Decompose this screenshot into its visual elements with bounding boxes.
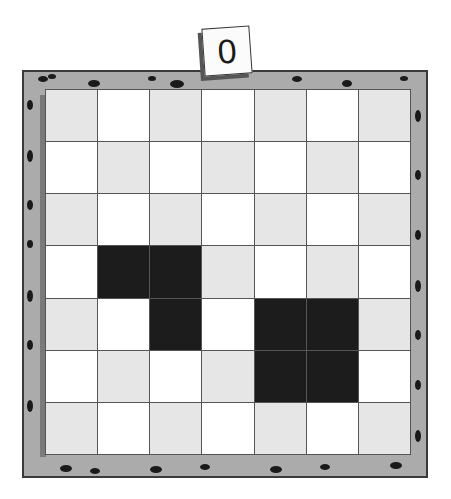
spot-decoration: [270, 466, 282, 473]
board-cell[interactable]: [202, 142, 253, 193]
board-cell[interactable]: [150, 299, 201, 350]
board-cell[interactable]: [359, 403, 410, 454]
board-cell[interactable]: [202, 194, 253, 245]
board-cell[interactable]: [359, 142, 410, 193]
spot-decoration: [27, 100, 33, 110]
spot-decoration: [400, 76, 408, 81]
board-cell[interactable]: [150, 194, 201, 245]
spot-decoration: [27, 400, 33, 412]
spot-decoration: [415, 170, 421, 180]
spot-decoration: [415, 380, 421, 390]
game-board[interactable]: [45, 89, 411, 455]
spot-decoration: [342, 80, 352, 87]
board-cell[interactable]: [359, 246, 410, 297]
board-cell[interactable]: [307, 299, 358, 350]
board-cell[interactable]: [98, 351, 149, 402]
score-value: 0: [216, 31, 238, 71]
board-cell[interactable]: [307, 246, 358, 297]
board-cell[interactable]: [46, 351, 97, 402]
board-cell[interactable]: [255, 142, 306, 193]
board-cell[interactable]: [255, 194, 306, 245]
board-cell[interactable]: [46, 246, 97, 297]
board-cell[interactable]: [150, 403, 201, 454]
board-cell[interactable]: [46, 299, 97, 350]
spot-decoration: [320, 464, 330, 470]
spot-decoration: [27, 240, 33, 248]
board-cell[interactable]: [202, 299, 253, 350]
spot-decoration: [148, 76, 156, 81]
spot-decoration: [27, 290, 33, 302]
spot-decoration: [292, 76, 302, 82]
board-cell[interactable]: [98, 299, 149, 350]
board-cell[interactable]: [202, 403, 253, 454]
spot-decoration: [200, 464, 210, 470]
board-cell[interactable]: [307, 90, 358, 141]
spot-decoration: [27, 340, 33, 350]
board-cell[interactable]: [202, 246, 253, 297]
spot-decoration: [27, 200, 33, 210]
board-cell[interactable]: [46, 403, 97, 454]
spot-decoration: [390, 462, 402, 469]
score-tile: 0: [201, 25, 252, 76]
board-cell[interactable]: [150, 246, 201, 297]
board-cell[interactable]: [98, 246, 149, 297]
board-cell[interactable]: [150, 90, 201, 141]
board-cell[interactable]: [202, 351, 253, 402]
spot-decoration: [415, 110, 421, 122]
board-cell[interactable]: [255, 299, 306, 350]
spot-decoration: [60, 465, 72, 472]
spot-decoration: [415, 330, 421, 340]
board-cell[interactable]: [255, 90, 306, 141]
spot-decoration: [90, 468, 100, 474]
board-cell[interactable]: [98, 90, 149, 141]
spot-decoration: [415, 280, 421, 292]
spot-decoration: [415, 430, 421, 442]
board-cell[interactable]: [307, 403, 358, 454]
board-cell[interactable]: [150, 351, 201, 402]
spot-decoration: [48, 74, 56, 79]
board-cell[interactable]: [98, 194, 149, 245]
board-cell[interactable]: [46, 194, 97, 245]
spot-decoration: [38, 76, 48, 82]
spot-decoration: [170, 80, 184, 88]
board-cell[interactable]: [307, 142, 358, 193]
board-cell[interactable]: [202, 90, 253, 141]
spot-decoration: [150, 466, 162, 473]
board-cell[interactable]: [359, 194, 410, 245]
board-cell[interactable]: [255, 403, 306, 454]
board-cell[interactable]: [359, 299, 410, 350]
board-cell[interactable]: [255, 351, 306, 402]
board-cell[interactable]: [359, 90, 410, 141]
board-cell[interactable]: [307, 194, 358, 245]
board-cell[interactable]: [46, 142, 97, 193]
board-cell[interactable]: [150, 142, 201, 193]
board-cell[interactable]: [98, 403, 149, 454]
spot-decoration: [415, 230, 421, 240]
spot-decoration: [88, 80, 100, 87]
board-cell[interactable]: [98, 142, 149, 193]
board-cell[interactable]: [307, 351, 358, 402]
board-cell[interactable]: [359, 351, 410, 402]
board-cell[interactable]: [46, 90, 97, 141]
board-cell[interactable]: [255, 246, 306, 297]
spot-decoration: [27, 150, 33, 162]
